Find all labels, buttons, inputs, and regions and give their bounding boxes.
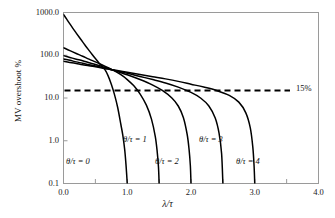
x-axis-label: λ/τ	[0, 198, 335, 209]
curve-label-theta-2: θ/τ = 2	[155, 156, 179, 166]
plot-border	[64, 13, 319, 184]
x-tick-label: 0.0	[44, 187, 84, 197]
y-tick-label: 100.0	[18, 49, 59, 59]
threshold-label: 15%	[296, 83, 312, 93]
axis-ticks	[64, 13, 319, 184]
x-tick-label: 2.0	[171, 187, 211, 197]
y-axis-label: MV overshoot %	[13, 31, 23, 151]
y-tick-label: 1.0	[18, 135, 59, 145]
curve-label-theta-4: θ/τ = 4	[236, 156, 260, 166]
y-tick-label: 10.0	[18, 92, 59, 102]
axis-frame	[64, 13, 319, 184]
y-tick-label: 1000.0	[18, 7, 59, 17]
curve-label-theta-0: θ/τ = 0	[66, 156, 90, 166]
chart-figure: 1000.0 100.0 10.0 1.0 0.1 0.0 1.0 2.0 3.…	[0, 0, 335, 218]
x-tick-label: 1.0	[107, 187, 147, 197]
curve-label-theta-3: θ/τ = 3	[199, 134, 223, 144]
x-tick-label: 4.0	[299, 187, 335, 197]
x-tick-label: 3.0	[235, 187, 275, 197]
curve-label-theta-1: θ/τ = 1	[123, 134, 147, 144]
